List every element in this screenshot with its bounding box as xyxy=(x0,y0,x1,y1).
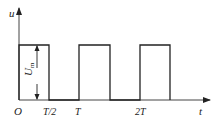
amplitude-label: Um xyxy=(22,62,36,76)
tick-label-two-period: 2T xyxy=(135,106,147,117)
square-wave-signal xyxy=(19,45,170,100)
square-wave-diagram: Um u t O T/2 T 2T xyxy=(0,0,213,123)
tick-label-period: T xyxy=(75,106,82,117)
svg-text:Um: Um xyxy=(22,62,36,76)
x-axis-label: t xyxy=(199,105,203,117)
tick-label-half-period: T/2 xyxy=(43,106,56,117)
origin-label: O xyxy=(14,105,22,117)
y-axis-label: u xyxy=(9,7,15,19)
